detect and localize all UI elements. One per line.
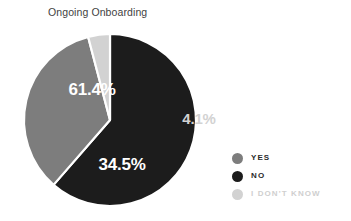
pie-slice-value-label: 34.5% (98, 155, 145, 174)
legend-item[interactable]: YES (232, 150, 348, 166)
legend-item[interactable]: NO (232, 168, 348, 184)
pie-slice-group (24, 34, 196, 206)
legend-item-label: YES (251, 154, 270, 162)
legend-swatch-circle-icon (232, 189, 243, 200)
pie-svg: 61.4%34.5%4.1% (0, 0, 230, 221)
pie-chart-figure: Ongoing Onboarding 61.4%34.5%4.1% YESNOI… (0, 0, 351, 221)
legend-swatch-circle-icon (232, 171, 243, 182)
pie-slice-value-label: 61.4% (68, 80, 115, 99)
pie-plot-area: 61.4%34.5%4.1% (0, 0, 230, 221)
legend-item-label: NO (251, 172, 265, 180)
legend-swatch-circle-icon (232, 153, 243, 164)
chart-legend: YESNOI DON'T KNOW (232, 150, 348, 204)
pie-slice-value-label: 4.1% (182, 110, 215, 127)
legend-item[interactable]: I DON'T KNOW (232, 186, 348, 202)
legend-item-label: I DON'T KNOW (251, 190, 321, 198)
